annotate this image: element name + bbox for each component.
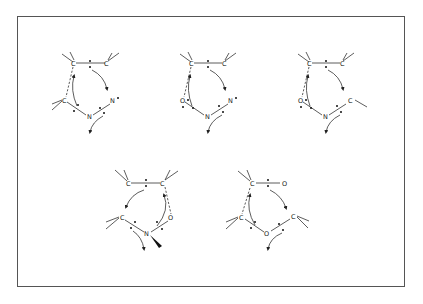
atom-label: C <box>71 60 76 68</box>
structure-2: C C O N N <box>180 52 237 132</box>
atom-label: N <box>87 113 92 121</box>
atom-label: N <box>323 113 328 121</box>
atom-label: O <box>180 97 185 105</box>
atom-label: N <box>205 113 210 121</box>
atom-label: C <box>291 213 296 221</box>
atom-label: O <box>168 214 173 222</box>
atom-label: C <box>239 214 244 222</box>
atom-label: N <box>228 97 233 105</box>
atom-label: N <box>110 97 115 105</box>
structure-5: C O C O C <box>226 170 309 249</box>
atom-label: C <box>348 97 353 105</box>
structure-1: C C C N N <box>52 52 119 132</box>
atom-label: O <box>282 180 287 188</box>
atom-label: O <box>298 97 303 105</box>
atom-label: C <box>160 180 165 188</box>
structure-3: C C O N C <box>298 52 367 132</box>
atom-label: N <box>144 230 149 238</box>
atom-label: C <box>62 97 67 105</box>
atom-label: O <box>264 230 269 238</box>
atom-label: C <box>250 180 255 188</box>
atom-label: C <box>126 180 131 188</box>
atom-label: C <box>222 60 227 68</box>
reaction-diagram: C C C N N C C O N N <box>0 0 423 304</box>
atom-label: C <box>340 60 345 68</box>
atom-label: C <box>307 60 312 68</box>
atom-label: C <box>104 60 109 68</box>
atom-label: C <box>120 214 125 222</box>
structure-4: C C C N O <box>106 170 178 249</box>
atom-label: C <box>189 60 194 68</box>
